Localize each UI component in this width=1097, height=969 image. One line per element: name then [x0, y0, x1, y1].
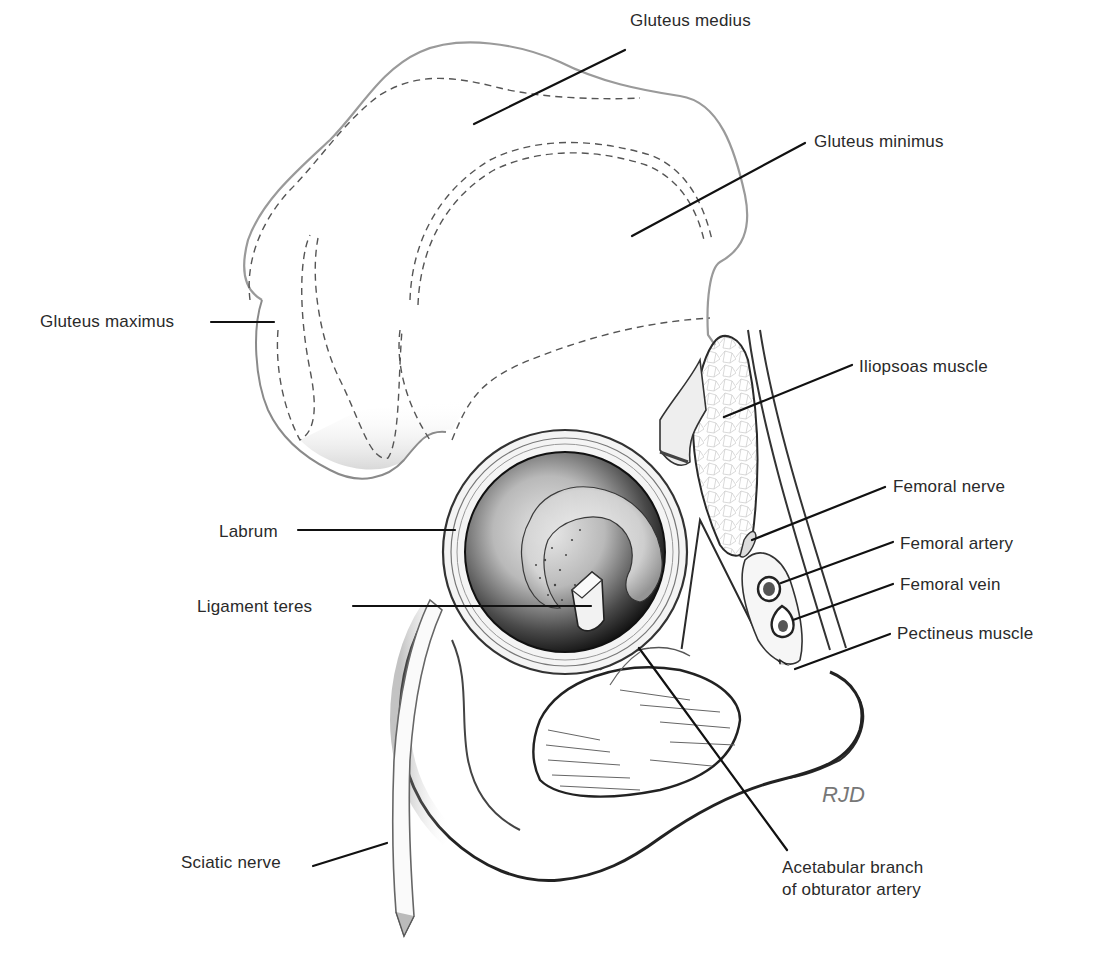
label-sciatic-nerve: Sciatic nerve [181, 852, 281, 873]
label-gluteus-maximus: Gluteus maximus [40, 311, 174, 332]
label-iliopsoas-muscle: Iliopsoas muscle [859, 356, 988, 377]
leader-line-femoral-nerve [752, 487, 885, 540]
artist-signature: RJD [822, 782, 865, 807]
label-acetabular-branch-obturator-artery: Acetabular branch of obturator artery [782, 857, 923, 901]
label-ligament-teres: Ligament teres [197, 596, 312, 617]
label-labrum: Labrum [219, 521, 278, 542]
leader-line-femoral-artery [781, 542, 893, 583]
leader-line-femoral-vein [793, 584, 893, 620]
label-gluteus-minimus: Gluteus minimus [814, 131, 944, 152]
label-pectineus-muscle: Pectineus muscle [897, 623, 1033, 644]
femoral-artery-shape [758, 577, 780, 601]
label-femoral-nerve: Femoral nerve [893, 476, 1005, 497]
leader-line-sciatic-nerve [313, 843, 387, 866]
label-gluteus-medius: Gluteus medius [630, 10, 751, 31]
acetabulum [443, 430, 687, 674]
label-femoral-vein: Femoral vein [900, 574, 1001, 595]
label-femoral-artery: Femoral artery [900, 533, 1013, 554]
